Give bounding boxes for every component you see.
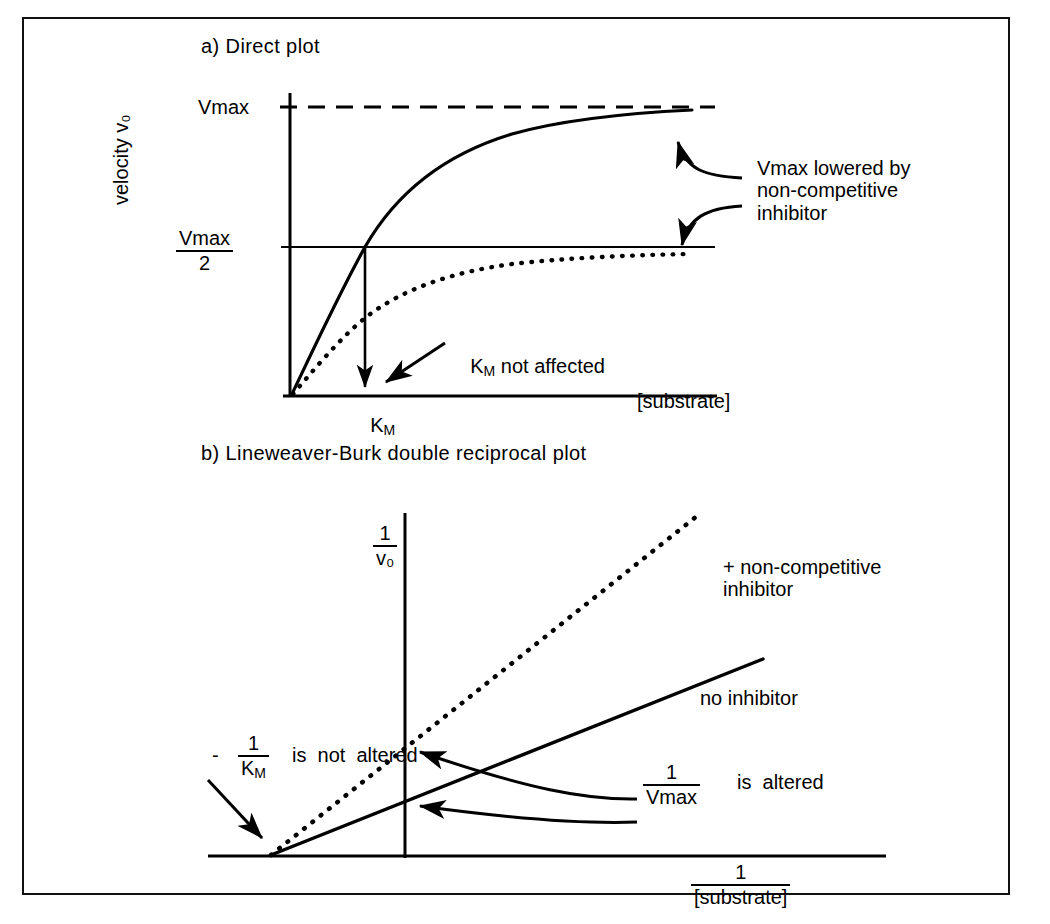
vmax-lowered-upper-arrow: [678, 142, 742, 178]
inverse-km-denominator: KM: [238, 757, 269, 781]
km-tick-subscript: M: [384, 422, 396, 438]
panel-a-y-axis-label: velocity v₀: [110, 114, 132, 205]
panel-b-y-axis-label: 1 v₀: [373, 523, 397, 569]
inverse-vmax-denominator: Vmax: [643, 786, 700, 808]
no-inhibitor-annotation: no inhibitor: [700, 687, 798, 709]
km-tick-main: K: [370, 414, 383, 436]
plus-non-competitive-inhibitor-annotation: + non-competitive inhibitor: [723, 556, 881, 601]
non-competitive-inhibitor-line: [271, 516, 697, 855]
vmax-altered-upper-arrow: [420, 752, 637, 799]
inverse-vmax-numerator: 1: [643, 762, 700, 786]
panel-b-y-denominator: v₀: [373, 547, 397, 569]
figure-page: a) Direct plot Vmax Vmax 2 velocity v₀ K…: [0, 0, 1050, 924]
inverse-km-fraction: 1 KM: [238, 733, 269, 781]
inverse-km-den-subscript: M: [254, 765, 266, 781]
km-note-main: K: [470, 355, 483, 377]
panel-b-title: b) Lineweaver-Burk double reciprocal plo…: [201, 442, 586, 465]
km-not-affected-annotation: KM not affected: [448, 333, 605, 403]
panel-b-x-denominator: [substrate]: [691, 886, 790, 908]
km-not-affected-arrow: [386, 343, 445, 382]
panel-b-x-numerator: 1: [691, 862, 790, 886]
panel-b-y-numerator: 1: [373, 523, 397, 547]
panel-a-title: a) Direct plot: [201, 35, 320, 58]
panel-a-x-axis-label: [substrate]: [637, 390, 730, 412]
inverse-vmax-fraction: 1 Vmax: [643, 762, 700, 808]
vmax-lowered-annotation: Vmax lowered by non-competitive inhibito…: [757, 157, 910, 224]
km-note-rest: not affected: [495, 355, 605, 377]
half-vmax-denominator: 2: [176, 252, 233, 274]
km-note-subscript: M: [484, 363, 496, 379]
vmax-lowered-lower-arrow: [682, 206, 742, 245]
vmax-is-altered-text: is altered: [737, 771, 824, 793]
vmax-axis-label: Vmax: [198, 96, 249, 118]
km-not-altered-text: is not altered: [292, 744, 418, 766]
inverse-km-den-main: K: [241, 757, 254, 779]
half-vmax-axis-label: Vmax 2: [176, 228, 233, 274]
half-vmax-numerator: Vmax: [176, 228, 233, 252]
panel-b-x-axis-label: 1 [substrate]: [691, 862, 790, 908]
vmax-altered-lower-arrow: [420, 806, 637, 822]
km-not-altered-minus-sign: -: [212, 744, 219, 767]
km-not-altered-arrow: [208, 780, 262, 838]
inverse-km-numerator: 1: [238, 733, 269, 757]
